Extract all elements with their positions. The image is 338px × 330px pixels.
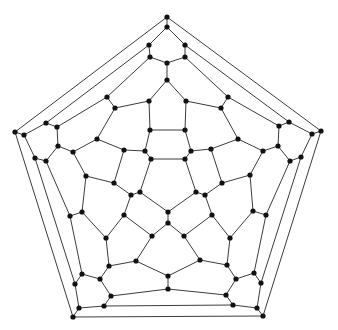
graph-node [72, 281, 77, 286]
graph-edge [75, 284, 79, 308]
graph-edge [257, 283, 261, 308]
graph-node [309, 131, 314, 136]
graph-edge [124, 215, 152, 236]
graph-node [12, 129, 17, 134]
graph-edge [167, 57, 185, 63]
graph-edge [136, 236, 152, 261]
graph-edge [185, 57, 228, 97]
graph-node [250, 208, 255, 213]
graph-edge [35, 158, 75, 284]
graph-node [111, 180, 116, 185]
graph-edge [185, 45, 289, 122]
graph-edge [140, 159, 151, 192]
graph-node [188, 148, 193, 153]
graph-edge [86, 176, 114, 183]
graph-edge [168, 192, 196, 212]
graph-edge [185, 130, 191, 151]
graph-edge [168, 260, 200, 276]
graph-edge [167, 17, 321, 131]
graph-edge [100, 279, 111, 296]
graph-node [121, 212, 126, 217]
graph-node [197, 257, 202, 262]
graph-node [219, 180, 224, 185]
graph-edge [211, 139, 238, 149]
graph-edge [230, 211, 253, 238]
graph-edge [97, 108, 115, 139]
graph-edge [82, 274, 100, 279]
graph-edge [238, 139, 263, 151]
graph-edge [185, 101, 186, 130]
graph-edge [124, 195, 131, 215]
graph-node [260, 313, 265, 318]
graph-node [276, 123, 281, 128]
graph-node [254, 305, 259, 310]
graph-node [165, 286, 170, 291]
graph-node [286, 119, 291, 124]
graph-node [260, 148, 265, 153]
graph-node [181, 233, 186, 238]
graph-node [318, 128, 323, 133]
graph-node [112, 105, 117, 110]
graph-node [104, 94, 109, 99]
graph-node [225, 94, 230, 99]
graph-edge [149, 27, 167, 45]
graph-node [149, 233, 154, 238]
graph-edge [263, 131, 321, 316]
graph-edge [46, 45, 149, 123]
graph-node [164, 14, 169, 19]
graph-diagram [0, 0, 338, 330]
graph-edge [24, 135, 35, 158]
graph-edge [106, 238, 109, 266]
graph-node [251, 270, 256, 275]
graph-edge [186, 101, 221, 108]
graph-edge [82, 176, 86, 212]
graph-edge [145, 130, 150, 151]
graph-node [70, 314, 75, 319]
graph-node [108, 293, 113, 298]
graph-node [164, 24, 169, 29]
graph-node [227, 235, 232, 240]
graph-edge [289, 122, 312, 134]
graph-edge [57, 97, 107, 127]
graph-edge [250, 151, 263, 175]
graph-edge [261, 157, 301, 283]
graph-edge [227, 238, 230, 265]
graph-edge [168, 289, 226, 295]
graph-edge [70, 216, 82, 274]
graph-edge [211, 149, 222, 183]
graph-node [67, 213, 72, 218]
graph-node [101, 303, 106, 308]
graph-node [202, 192, 207, 197]
graph-node [224, 262, 229, 267]
graph-node [193, 189, 198, 194]
graph-edge [278, 126, 279, 146]
graph-node [247, 172, 252, 177]
graph-node [182, 54, 187, 59]
graph-edge [57, 127, 58, 146]
graph-edge [233, 305, 257, 308]
fullerene-graph-drawing [0, 0, 338, 330]
graph-node [54, 124, 59, 129]
graph-edge [221, 108, 238, 139]
graph-edge [114, 183, 131, 195]
graph-edge [191, 149, 211, 151]
graph-edge [254, 215, 266, 273]
graph-edge [124, 150, 145, 151]
graph-edge [226, 279, 236, 295]
graph-node [164, 77, 169, 82]
graph-edge [301, 134, 312, 157]
graph-edge [107, 57, 150, 97]
graph-node [133, 258, 138, 263]
graph-node [142, 148, 147, 153]
graph-node [183, 98, 188, 103]
graph-edge [24, 123, 46, 135]
graph-edge [278, 146, 290, 161]
graph-node [146, 42, 151, 47]
graph-node [298, 154, 303, 159]
graph-node [182, 127, 187, 132]
graph-edge [115, 101, 149, 108]
graph-edge [15, 17, 167, 132]
graph-edge [106, 215, 124, 238]
graph-node [258, 280, 263, 285]
graph-node [79, 209, 84, 214]
